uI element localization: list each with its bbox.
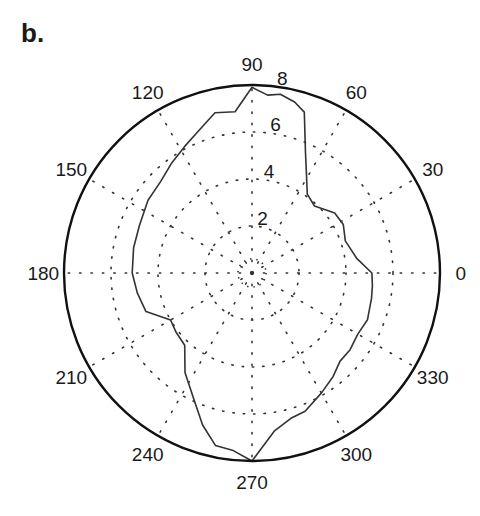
grid-spoke <box>252 273 346 436</box>
angle-tick-label: 240 <box>132 444 164 465</box>
angle-tick-label: 30 <box>422 159 443 180</box>
angle-tick-label: 0 <box>455 263 466 284</box>
polar-grid <box>64 85 440 461</box>
grid-spoke <box>158 110 252 273</box>
angle-tick-label: 150 <box>55 159 87 180</box>
angle-tick-label: 90 <box>241 54 262 75</box>
radius-tick-label: 2 <box>257 208 268 229</box>
angle-tick-label: 270 <box>236 472 268 493</box>
angle-tick-label: 180 <box>27 263 59 284</box>
grid-spoke <box>252 110 346 273</box>
grid-spoke <box>158 273 252 436</box>
radius-tick-label: 8 <box>277 68 288 89</box>
angle-tick-label: 300 <box>340 444 372 465</box>
radius-tick-label: 4 <box>264 161 275 182</box>
angle-tick-label: 210 <box>55 367 87 388</box>
angle-tick-label: 120 <box>132 82 164 103</box>
radius-tick-label: 6 <box>270 114 281 135</box>
angle-tick-label: 60 <box>346 82 367 103</box>
polar-plot: 0306090120150180210240270300330 2468 <box>0 0 480 516</box>
grid-spoke <box>252 273 415 367</box>
angle-tick-label: 330 <box>417 367 449 388</box>
